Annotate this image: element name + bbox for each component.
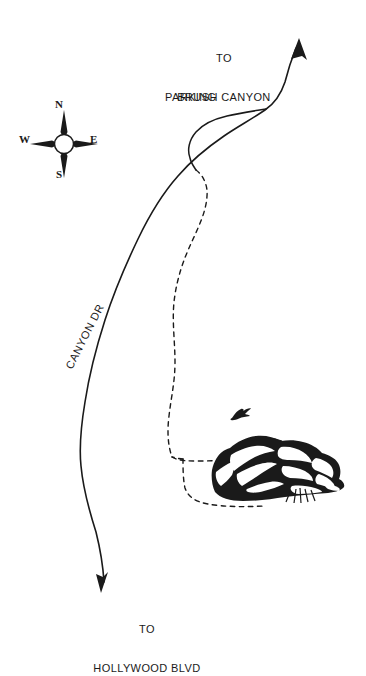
compass-label-east: E	[90, 133, 97, 145]
compass-rose	[30, 110, 98, 178]
label-to-brush-canyon: TO BRUSH CANYON	[163, 26, 285, 130]
road-arrow-south	[96, 572, 108, 593]
label-to-hollywood-blvd-line2: HOLLYWOOD BLVD	[47, 662, 247, 675]
label-to-brush-canyon-line1: TO	[163, 52, 285, 65]
bird-silhouette	[230, 408, 251, 420]
label-parking: PARKING	[165, 91, 245, 104]
label-to-hollywood-blvd-line1: TO	[47, 623, 247, 636]
road-arrow-north	[291, 38, 307, 60]
compass-label-south: S	[56, 168, 62, 180]
label-to-hollywood-blvd: TO HOLLYWOOD BLVD	[47, 597, 247, 676]
compass-label-north: N	[55, 98, 63, 110]
compass-label-west: W	[19, 133, 30, 145]
rock-outcrop	[212, 436, 345, 503]
